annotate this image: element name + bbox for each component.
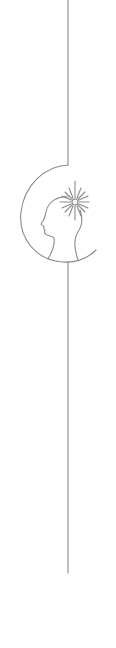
crescent-arc-icon (21, 165, 96, 262)
radiant-star-icon (60, 181, 89, 220)
ornament-illustration (0, 0, 116, 648)
head-profile-icon (41, 197, 68, 259)
head-back-outline (75, 210, 82, 260)
